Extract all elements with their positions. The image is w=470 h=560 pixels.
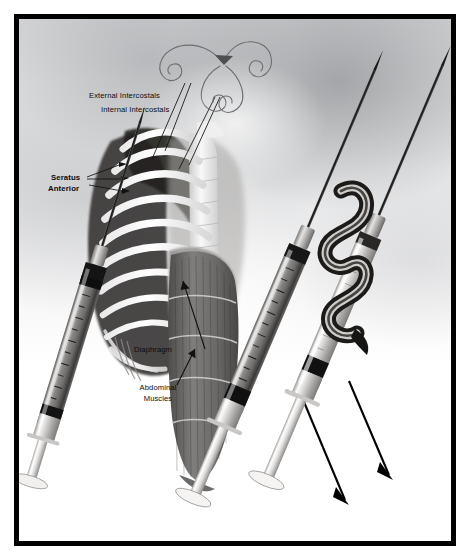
serpentine-structure <box>325 188 368 355</box>
label-seratus-anterior-line1: Seratus <box>51 173 80 182</box>
illustration-canvas: External Intercostals Internal Intercost… <box>19 19 451 541</box>
syringe-layer <box>19 19 451 541</box>
picture-frame: External Intercostals Internal Intercost… <box>14 14 456 546</box>
label-abdominal-muscles-line2: Muscles <box>129 394 187 403</box>
label-diaphragm: Diaphragm <box>134 345 172 354</box>
syringe-left <box>19 101 162 492</box>
label-seratus-anterior-line2: Anterior <box>48 184 79 193</box>
label-abdominal-muscles-line1: Abdominal <box>129 383 187 392</box>
label-external-intercostals: External Intercostals <box>89 91 160 100</box>
illustration-figure: External Intercostals Internal Intercost… <box>0 0 470 560</box>
label-internal-intercostals: Internal Intercostals <box>101 105 169 114</box>
